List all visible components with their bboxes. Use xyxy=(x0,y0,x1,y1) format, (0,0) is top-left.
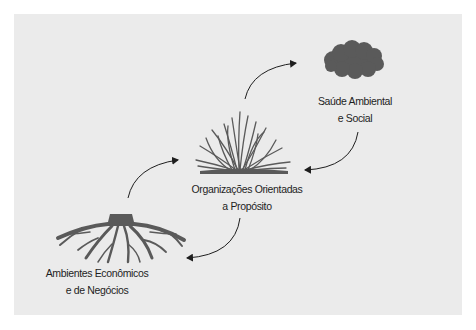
node-label-line: Organizações Orientadas xyxy=(191,181,302,198)
node-label-line: Saúde Ambiental xyxy=(318,93,392,110)
arrow-cloud-to-grass xyxy=(305,132,358,170)
node-label-environments: Ambientes Econômicos e de Negócios xyxy=(46,265,149,299)
node-label-line: e de Negócios xyxy=(46,282,149,299)
node-label-organizations: Organizações Orientadas a Propósito xyxy=(191,181,302,215)
node-label-line: e Social xyxy=(318,110,392,127)
arrow-grass-to-cloud xyxy=(245,63,296,99)
node-label-line: Ambientes Econômicos xyxy=(46,265,149,282)
arrow-grass-to-roots xyxy=(187,218,240,258)
node-label-line: a Propósito xyxy=(191,198,302,215)
cloud-icon xyxy=(324,40,384,79)
node-label-health: Saúde Ambiental e Social xyxy=(318,93,392,127)
roots-icon xyxy=(58,214,184,262)
grass-icon xyxy=(196,112,290,170)
arrow-roots-to-grass xyxy=(128,160,178,198)
